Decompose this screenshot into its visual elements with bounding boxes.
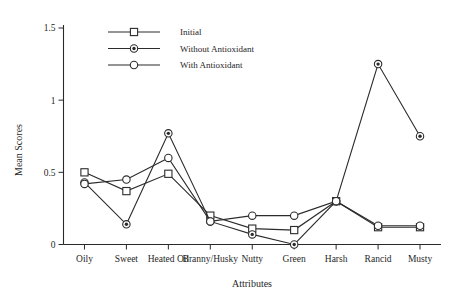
y-tick-label: 1 [51,96,56,106]
data-point-square [291,226,298,233]
series-without-antioxidant [81,60,424,248]
data-point-circle-filled-core [292,243,295,246]
chart-series-layer [81,60,424,248]
data-point-circle-open [207,218,214,225]
legend-entry-with-antioxidant: With Antioxidant [108,60,243,70]
data-point-square [130,28,137,35]
series-initial [81,169,424,234]
data-point-circle-open [332,198,339,205]
x-tick-label: Nutty [241,254,263,264]
x-tick-label: Green [283,254,306,264]
chart-figure: 00.511.5 OilySweetHeated OilBranny/Husky… [0,0,455,305]
data-point-circle-open [374,222,381,229]
data-point-circle-open [130,61,137,68]
y-axis-ticks [59,28,64,245]
y-axis-tick-labels: 00.511.5 [44,23,56,250]
legend-entry-label: Initial [180,27,202,37]
data-point-circle-open [416,222,423,229]
data-point-circle-filled-core [132,47,135,50]
line-chart: 00.511.5 OilySweetHeated OilBranny/Husky… [0,0,455,305]
legend-entry-initial: Initial [108,27,202,37]
data-point-circle-filled-core [251,233,254,236]
legend-entry-label: With Antioxidant [180,60,243,70]
data-point-square [81,169,88,176]
data-point-square [165,170,172,177]
x-tick-label: Harsh [325,254,348,264]
y-tick-label: 0 [51,240,56,250]
legend-entry-label: Without Antioxidant [180,44,254,54]
x-tick-label: Sweet [115,254,139,264]
data-point-circle-open [165,154,172,161]
data-point-circle-open [290,212,297,219]
data-point-circle-filled-core [125,223,128,226]
x-tick-label: Branny/Husky [183,254,239,264]
series-with-antioxidant [81,154,424,229]
x-axis-title: Attributes [232,278,272,289]
legend-entry-without-antioxidant: Without Antioxidant [108,44,254,54]
data-point-circle-open [249,212,256,219]
x-tick-label: Musty [408,254,433,264]
x-tick-label: Oily [76,254,93,264]
x-tick-label: Rancid [365,254,392,264]
x-axis-tick-labels: OilySweetHeated OilBranny/HuskyNuttyGree… [76,254,432,264]
y-axis-title: Mean Scores [13,124,24,176]
data-point-circle-open [123,176,130,183]
data-point-circle-open [81,180,88,187]
chart-legend: InitialWithout AntioxidantWith Antioxida… [108,27,254,70]
data-point-circle-filled-core [376,62,379,65]
x-axis-ticks [84,245,420,250]
data-point-circle-filled-core [167,132,170,135]
y-tick-label: 0.5 [44,168,56,178]
data-point-circle-filled-core [418,135,421,138]
data-point-square [123,187,130,194]
y-tick-label: 1.5 [44,23,56,33]
